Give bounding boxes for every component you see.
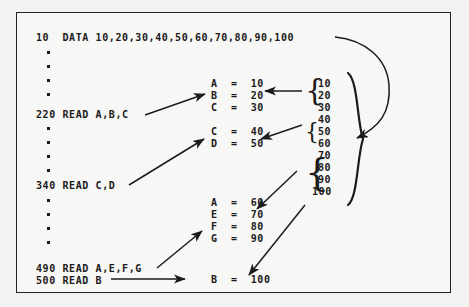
ellipsis-dot bbox=[47, 199, 50, 202]
ellipsis-dot bbox=[47, 79, 50, 82]
arrow-layer bbox=[17, 13, 452, 294]
outer-brace-shape bbox=[344, 69, 370, 209]
ellipsis-dot bbox=[47, 241, 50, 244]
assign-var: D bbox=[211, 138, 218, 149]
assign-var: A bbox=[211, 78, 218, 89]
pool-group-brace-2: { bbox=[305, 121, 319, 143]
read-line-220: 220 READ A,B,C bbox=[36, 110, 129, 120]
diagram-frame: 10 DATA 10,20,30,40,50,60,70,80,90,100 2… bbox=[16, 12, 451, 293]
assign-val: 10 bbox=[251, 78, 264, 89]
assignment-row: A = 60 bbox=[211, 198, 264, 208]
ellipsis-dot bbox=[47, 93, 50, 96]
read-line-500: 500 READ B bbox=[36, 276, 102, 286]
pool-group2-to-assign2 bbox=[261, 125, 302, 139]
assign-eq: = bbox=[231, 78, 238, 89]
assignment-row: C = 30 bbox=[211, 103, 264, 113]
assign-var: C bbox=[211, 102, 218, 113]
pool-value: 60 bbox=[318, 139, 331, 149]
assign-var: C bbox=[211, 126, 218, 137]
assign-val: 60 bbox=[251, 197, 264, 208]
pool-value: 70 bbox=[318, 151, 331, 161]
assign-var: B bbox=[211, 90, 218, 101]
assign-eq: = bbox=[231, 274, 238, 285]
assign-eq: = bbox=[231, 197, 238, 208]
assign-eq: = bbox=[231, 102, 238, 113]
data-statement-line: 10 DATA 10,20,30,40,50,60,70,80,90,100 bbox=[36, 33, 294, 43]
read-line-490: 490 READ A,E,F,G bbox=[36, 264, 142, 274]
assign-val: 70 bbox=[251, 209, 264, 220]
assign-eq: = bbox=[231, 90, 238, 101]
ellipsis-dot bbox=[47, 227, 50, 230]
pool-value: 30 bbox=[318, 103, 331, 113]
assignment-row: E = 70 bbox=[211, 210, 264, 220]
ellipsis-dot bbox=[47, 65, 50, 68]
ellipsis-dot bbox=[47, 141, 50, 144]
assign-eq: = bbox=[231, 126, 238, 137]
assign-eq: = bbox=[231, 233, 238, 244]
ellipsis-dot bbox=[47, 213, 50, 216]
ellipsis-dot bbox=[47, 127, 50, 130]
assignment-row: D = 50 bbox=[211, 139, 264, 149]
ellipsis-dot bbox=[47, 51, 50, 54]
assign-val: 20 bbox=[251, 90, 264, 101]
assign-var: G bbox=[211, 233, 218, 244]
read220-to-assign1 bbox=[145, 94, 205, 115]
pool-value: 40 bbox=[318, 115, 331, 125]
assignment-row: G = 90 bbox=[211, 234, 264, 244]
pool-value: 80 bbox=[318, 163, 331, 173]
pool-value: 100 bbox=[312, 187, 332, 197]
assignment-row: B = 20 bbox=[211, 91, 264, 101]
assignment-row: F = 80 bbox=[211, 222, 264, 232]
assign-val: 40 bbox=[251, 126, 264, 137]
ellipsis-dot bbox=[47, 169, 50, 172]
read-line-340: 340 READ C,D bbox=[36, 181, 115, 191]
assign-val: 100 bbox=[251, 274, 271, 285]
assignment-row: B = 100 bbox=[211, 275, 271, 285]
assignment-row: C = 40 bbox=[211, 127, 264, 137]
assign-val: 80 bbox=[251, 221, 264, 232]
assign-var: E bbox=[211, 209, 218, 220]
assign-val: 50 bbox=[251, 138, 264, 149]
pool-value: 50 bbox=[318, 127, 331, 137]
assign-eq: = bbox=[231, 209, 238, 220]
ellipsis-dot bbox=[47, 155, 50, 158]
assign-var: F bbox=[211, 221, 218, 232]
assign-var: B bbox=[211, 274, 218, 285]
read490-to-assign3 bbox=[157, 231, 202, 268]
pool-outer-brace bbox=[344, 69, 370, 209]
pool-value: 20 bbox=[318, 91, 331, 101]
read340-to-assign2 bbox=[129, 139, 204, 185]
assign-var: A bbox=[211, 197, 218, 208]
assign-eq: = bbox=[231, 221, 238, 232]
assign-val: 30 bbox=[251, 102, 264, 113]
assignment-row: A = 10 bbox=[211, 79, 264, 89]
assign-val: 90 bbox=[251, 233, 264, 244]
pool-value: 10 bbox=[318, 79, 331, 89]
pool-value: 90 bbox=[318, 175, 331, 185]
assign-eq: = bbox=[231, 138, 238, 149]
